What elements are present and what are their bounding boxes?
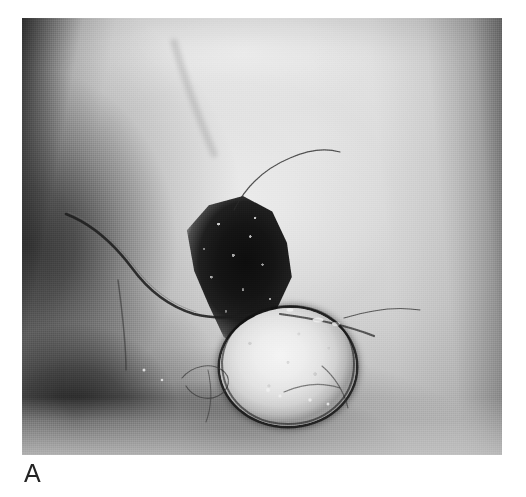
photo-vignette (22, 18, 502, 455)
clinical-photograph (22, 18, 502, 455)
figure-panel: A (0, 0, 526, 497)
panel-label: A (24, 461, 41, 486)
